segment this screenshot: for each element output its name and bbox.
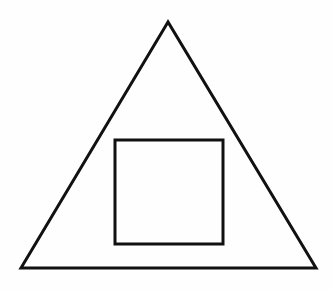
outer-triangle	[21, 22, 316, 268]
diagram-canvas: Square inscribed in triangle	[0, 0, 333, 290]
diagram-svg	[0, 0, 333, 290]
inner-square	[115, 140, 223, 244]
